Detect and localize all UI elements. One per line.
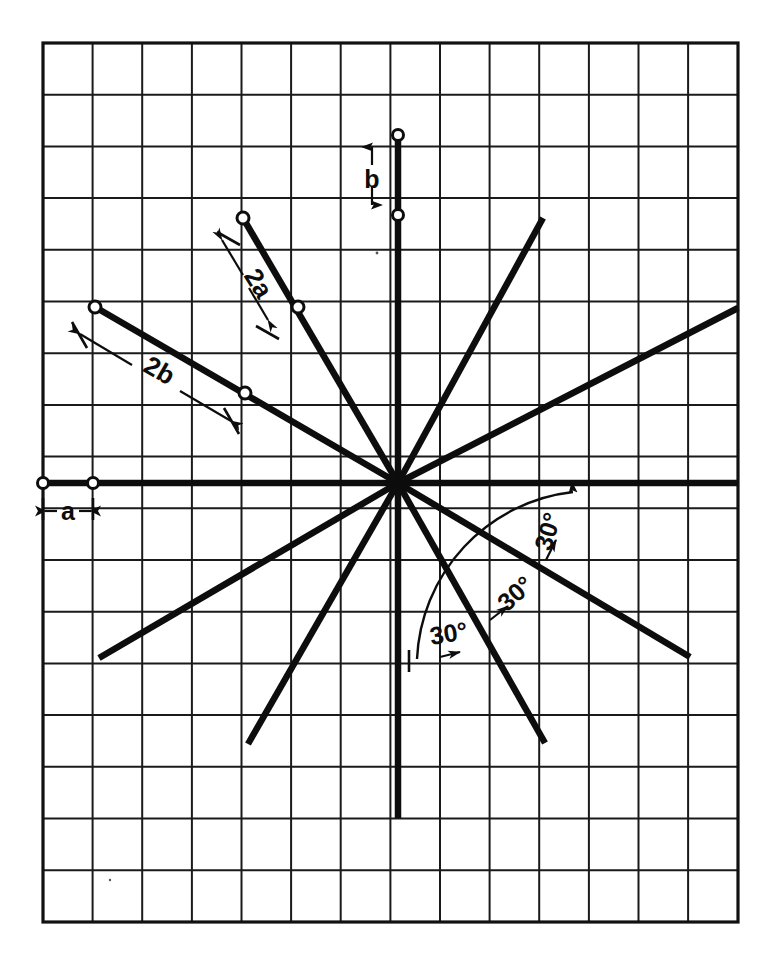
a-end-node [88,478,99,489]
dimension-label-a: a [61,497,76,525]
angle-tick-30 [440,652,460,657]
scan-artifacts [109,252,379,882]
a-origin-node [38,478,49,489]
radial-line-120deg [243,218,398,483]
b-top-node [393,130,404,141]
dimension-label-b: b [364,165,379,193]
two-a-start-node [237,212,249,224]
angle-label-3: 30° [528,509,566,553]
radial-line-300deg [398,483,545,743]
angle-label-1: 30° [428,616,470,650]
two-b-extension-end [224,408,239,434]
two-a-extension-end [256,326,279,339]
radial-line-240deg [248,483,398,744]
dimension-2a: 2a [217,232,279,339]
grid-diagram-svg: b a 2a 2b [0,0,782,956]
two-b-start-node [89,301,101,313]
dimension-a: a [43,497,93,525]
two-a-end-node [292,301,304,313]
b-bottom-node [393,210,404,221]
scan-speck [376,252,379,255]
two-b-arrow-right [180,391,231,421]
two-b-arrow-left [80,334,132,365]
scan-speck [109,879,111,881]
two-b-extension-start [72,322,87,348]
figure-root: b a 2a 2b [0,0,782,956]
angle-label-2: 30° [492,570,539,616]
two-b-end-node [239,387,251,399]
two-a-extension-start [217,232,240,245]
dimension-b: b [364,147,379,205]
